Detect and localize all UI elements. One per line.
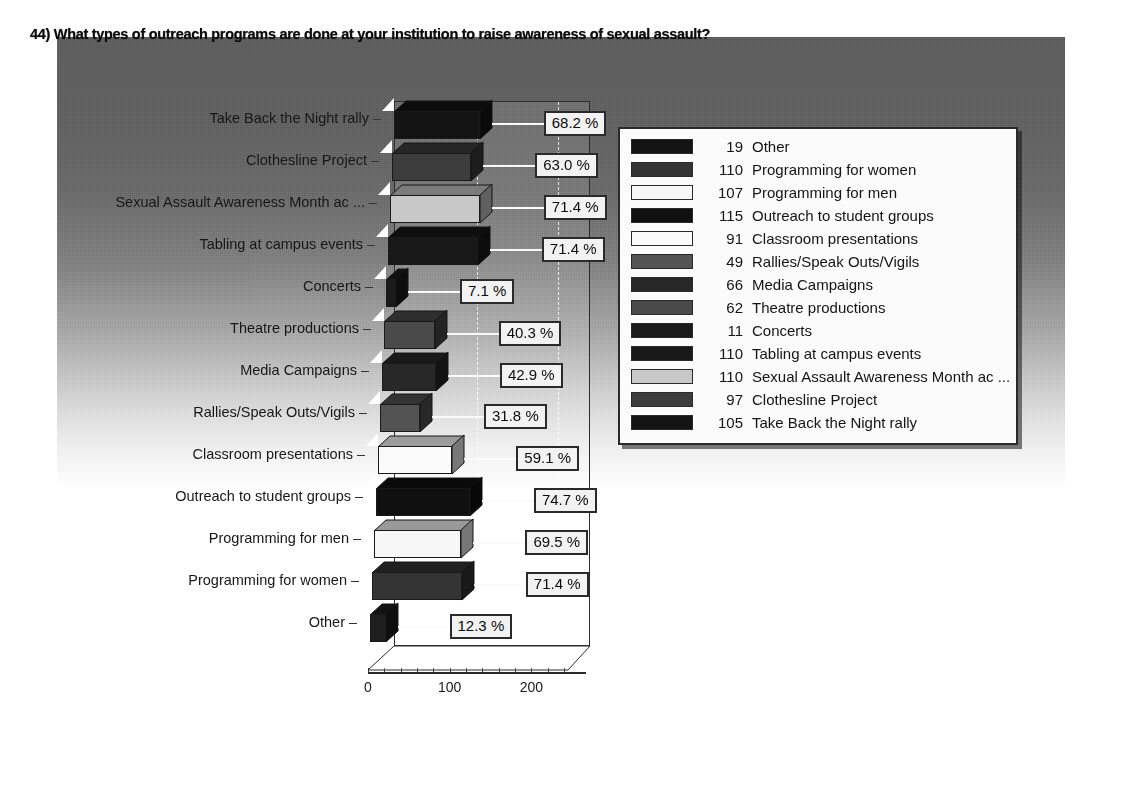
legend-label: Outreach to student groups: [752, 207, 934, 224]
legend-swatch: [631, 162, 693, 177]
category-label: Outreach to student groups: [175, 488, 351, 504]
legend-item[interactable]: 110Tabling at campus events: [620, 342, 1016, 365]
legend-item[interactable]: 97Clothesline Project: [620, 388, 1016, 411]
category-label: Tabling at campus events: [199, 236, 363, 252]
legend-swatch: [631, 277, 693, 292]
value-leader-line: [482, 500, 536, 502]
value-leader-line: [408, 291, 462, 293]
bar: [384, 310, 447, 349]
value-leader-line: [398, 626, 452, 628]
category-label: Sexual Assault Awareness Month ac ...: [115, 194, 365, 210]
legend-item[interactable]: 91Classroom presentations: [620, 227, 1016, 250]
bar: [388, 226, 490, 265]
legend-count: 19: [703, 138, 743, 155]
legend-label: Sexual Assault Awareness Month ac ...: [752, 368, 1010, 385]
legend-swatch: [631, 300, 693, 315]
bar-front-face: [394, 111, 480, 139]
bar-value-label: 71.4 %: [544, 195, 607, 220]
legend-count: 62: [703, 299, 743, 316]
category-label: Take Back the Night rally: [209, 110, 369, 126]
legend-count: 66: [703, 276, 743, 293]
bar: [374, 519, 473, 558]
bar-front-face: [382, 363, 436, 391]
bar-front-face: [378, 446, 452, 474]
category-label: Other: [309, 614, 345, 630]
legend-swatch: [631, 254, 693, 269]
legend-count: 49: [703, 253, 743, 270]
legend-swatch: [631, 369, 693, 384]
legend-item[interactable]: 11Concerts: [620, 319, 1016, 342]
bar-value-label: 12.3 %: [450, 614, 513, 639]
bar-front-face: [370, 614, 386, 642]
bar-value-label: 31.8 %: [484, 404, 547, 429]
legend-item[interactable]: 62Theatre productions: [620, 296, 1016, 319]
bar-value-label: 71.4 %: [542, 237, 605, 262]
bar-value-label: 42.9 %: [500, 363, 563, 388]
legend-count: 105: [703, 414, 743, 431]
bar-front-face: [384, 321, 435, 349]
category-label: Concerts: [303, 278, 361, 294]
value-leader-line: [490, 249, 544, 251]
legend-label: Other: [752, 138, 790, 155]
bar-front-face: [374, 530, 461, 558]
legend-count: 91: [703, 230, 743, 247]
category-tick: [359, 413, 367, 414]
bar-front-face: [372, 572, 462, 600]
value-leader-line: [464, 458, 518, 460]
legend-item[interactable]: 110Sexual Assault Awareness Month ac ...: [620, 365, 1016, 388]
bar-front-face: [390, 195, 480, 223]
bar-value-label: 40.3 %: [499, 321, 562, 346]
bar: [380, 393, 432, 432]
category-label: Programming for men: [209, 530, 349, 546]
bar-front-face: [392, 153, 471, 181]
bar: [394, 100, 492, 139]
bar: [392, 142, 483, 181]
legend-count: 107: [703, 184, 743, 201]
value-leader-line: [483, 165, 537, 167]
category-tick: [371, 161, 379, 162]
category-label: Theatre productions: [230, 320, 359, 336]
bar: [386, 268, 408, 307]
bar: [372, 561, 474, 600]
bar-front-face: [376, 488, 470, 516]
legend-item[interactable]: 66Media Campaigns: [620, 273, 1016, 296]
value-leader-line: [447, 333, 501, 335]
legend-label: Clothesline Project: [752, 391, 877, 408]
legend-item[interactable]: 19Other: [620, 135, 1016, 158]
value-leader-line: [474, 584, 528, 586]
legend-count: 97: [703, 391, 743, 408]
legend-swatch: [631, 415, 693, 430]
bar: [378, 435, 464, 474]
x-axis-line: [368, 672, 586, 674]
bar: [370, 603, 398, 642]
legend-label: Programming for women: [752, 161, 916, 178]
bar-value-label: 7.1 %: [460, 279, 514, 304]
category-tick: [355, 497, 363, 498]
legend-count: 110: [703, 368, 743, 385]
legend-label: Theatre productions: [752, 299, 885, 316]
legend-swatch: [631, 139, 693, 154]
category-tick: [363, 329, 371, 330]
bar-front-face: [386, 279, 396, 307]
bar: [390, 184, 492, 223]
legend-label: Take Back the Night rally: [752, 414, 917, 431]
category-tick: [367, 245, 375, 246]
bar-value-label: 69.5 %: [525, 530, 588, 555]
bar-value-label: 71.4 %: [526, 572, 589, 597]
legend-swatch: [631, 231, 693, 246]
legend-item[interactable]: 107Programming for men: [620, 181, 1016, 204]
legend-swatch: [631, 208, 693, 223]
legend-item[interactable]: 105Take Back the Night rally: [620, 411, 1016, 434]
legend-item[interactable]: 110Programming for women: [620, 158, 1016, 181]
category-label: Rallies/Speak Outs/Vigils: [193, 404, 355, 420]
legend-item[interactable]: 49Rallies/Speak Outs/Vigils: [620, 250, 1016, 273]
category-label: Clothesline Project: [246, 152, 367, 168]
category-label: Classroom presentations: [193, 446, 353, 462]
legend-count: 115: [703, 207, 743, 224]
bar-value-label: 59.1 %: [516, 446, 579, 471]
legend-item[interactable]: 115Outreach to student groups: [620, 204, 1016, 227]
value-leader-line: [473, 542, 527, 544]
bar: [382, 352, 448, 391]
category-tick: [357, 455, 365, 456]
bar-value-label: 74.7 %: [534, 488, 597, 513]
